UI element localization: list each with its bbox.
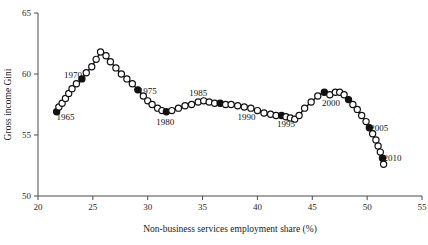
annotation-1985: 1985	[189, 88, 208, 98]
data-point-open[interactable]	[248, 105, 254, 111]
data-point-open[interactable]	[241, 104, 247, 110]
data-point-open[interactable]	[235, 103, 241, 109]
chart-plot-area: 202530354045505550556065Non-business ser…	[0, 0, 428, 245]
data-point-open[interactable]	[296, 112, 302, 118]
x-tick-label: 20	[34, 202, 44, 212]
data-point-open[interactable]	[363, 118, 369, 124]
data-point-open[interactable]	[73, 81, 79, 87]
x-tick-label: 50	[363, 202, 373, 212]
y-axis-title: Gross income Gini	[3, 68, 13, 140]
data-point-open[interactable]	[308, 99, 314, 105]
annotation-1975: 1975	[139, 86, 158, 96]
data-point-open[interactable]	[118, 71, 124, 77]
data-point-open[interactable]	[107, 59, 113, 65]
x-tick-label: 40	[253, 202, 263, 212]
y-tick-label: 55	[22, 130, 32, 140]
data-point-open[interactable]	[175, 105, 181, 111]
chart-figure: 202530354045505550556065Non-business ser…	[0, 0, 428, 245]
data-point-open[interactable]	[359, 112, 365, 118]
annotation-2005: 2005	[370, 123, 389, 133]
annotation-2000: 2000	[322, 98, 341, 108]
data-point-open[interactable]	[103, 53, 109, 59]
data-point-open[interactable]	[182, 103, 188, 109]
data-point-open[interactable]	[302, 105, 308, 111]
data-point-open[interactable]	[228, 101, 234, 107]
annotation-1980: 1980	[156, 117, 175, 127]
x-tick-label: 25	[88, 202, 98, 212]
x-axis-title: Non-business services employment share (…	[143, 224, 317, 235]
data-point-open[interactable]	[169, 108, 175, 114]
annotation-2010: 2010	[383, 153, 402, 163]
data-point-open[interactable]	[189, 101, 195, 107]
data-point-open[interactable]	[129, 81, 135, 87]
data-point-open[interactable]	[93, 56, 99, 62]
data-point-open[interactable]	[354, 106, 360, 112]
x-tick-label: 45	[308, 202, 318, 212]
annotation-1990: 1990	[237, 112, 256, 122]
data-point-open[interactable]	[83, 70, 89, 76]
annotation-1965: 1965	[56, 112, 75, 122]
data-point-open[interactable]	[315, 93, 321, 99]
y-tick-label: 65	[22, 8, 32, 18]
data-point-open[interactable]	[261, 110, 267, 116]
x-tick-label: 30	[143, 202, 153, 212]
data-point-open[interactable]	[373, 137, 379, 143]
annotation-1995: 1995	[277, 119, 296, 129]
data-point-open[interactable]	[113, 65, 119, 71]
data-point-open[interactable]	[124, 76, 130, 82]
y-tick-label: 50	[22, 191, 32, 201]
data-point-open[interactable]	[89, 64, 95, 70]
data-point-open[interactable]	[375, 143, 381, 149]
x-tick-label: 35	[198, 202, 208, 212]
y-tick-label: 60	[22, 69, 32, 79]
annotation-1970: 1970	[64, 70, 83, 80]
x-tick-label: 55	[418, 202, 428, 212]
